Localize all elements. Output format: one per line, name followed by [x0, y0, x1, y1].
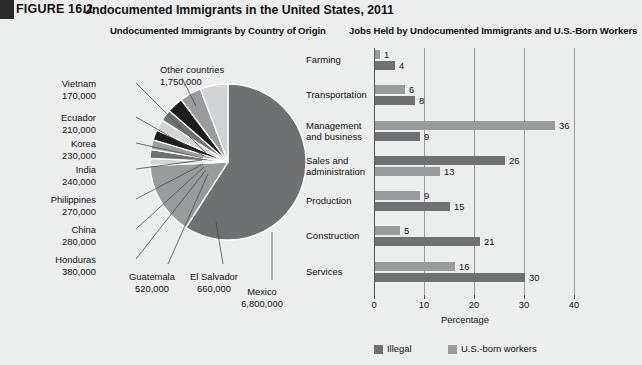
pie-label-vietnam: Vietnam170,000 [62, 78, 96, 101]
x-tick-30: 30 [519, 299, 529, 310]
bar-bottom-row-6 [375, 273, 525, 282]
bar-top-row-4 [375, 191, 420, 200]
x-tick-mark-30 [524, 295, 525, 299]
pie-label-ecuador: Ecuador210,000 [61, 112, 96, 135]
category-line-2: administration [306, 166, 372, 177]
bar-value-label: 30 [529, 273, 539, 282]
bar-value-label: 5 [404, 226, 409, 235]
legend-swatch [448, 345, 457, 354]
pie-label-value: 660,000 [174, 283, 254, 295]
category-line-1: Construction [306, 230, 372, 241]
pie-label-other-countries: Other countries1,750,000 [160, 64, 224, 87]
figure-number: FIGURE 16.2 [16, 2, 93, 16]
bar-value-label: 26 [509, 156, 519, 165]
x-tick-0: 0 [371, 299, 376, 310]
pie-label-korea: Korea230,000 [62, 138, 96, 161]
bar-category-sales-and: Sales andadministration [306, 155, 372, 178]
bar-chart-subtitle: Jobs Held by Undocumented Immigrants and… [349, 25, 637, 36]
x-tick-mark-10 [424, 295, 425, 299]
figure-accent-bar [0, 0, 14, 19]
category-line-1: Services [306, 266, 372, 277]
pie-label-name: El Salvador [174, 271, 254, 283]
category-line-1: Production [306, 195, 372, 206]
pie-label-name: Other countries [160, 64, 224, 76]
bar-category-services: Services [306, 266, 372, 277]
pie-label-name: Vietnam [62, 78, 96, 90]
bar-value-label: 21 [484, 237, 494, 246]
pie-label-name: Honduras [55, 254, 96, 266]
bar-top-row-3 [375, 156, 505, 165]
x-axis-label: Percentage [441, 314, 489, 325]
pie-label-value: 210,000 [61, 124, 96, 136]
pie-chart-panel: Mexico6,800,000Other countries1,750,000V… [0, 36, 310, 336]
bar-value-label: 9 [424, 191, 429, 200]
legend-label: U.S.-born workers [461, 343, 537, 354]
pie-label-name: Philippines [51, 194, 96, 206]
x-tick-40: 40 [569, 299, 579, 310]
gridline-40 [574, 48, 575, 295]
bar-value-label: 9 [424, 132, 429, 141]
pie-label-china: China280,000 [62, 224, 96, 247]
x-tick-mark-0 [374, 295, 375, 299]
bar-top-row-5 [375, 226, 400, 235]
bar-chart-panel: FarmingTransportationManagementand busin… [306, 40, 642, 340]
pie-label-value: 270,000 [51, 206, 96, 218]
bar-value-label: 16 [459, 262, 469, 271]
bar-value-label: 6 [409, 85, 414, 94]
pie-label-name: Ecuador [61, 112, 96, 124]
figure-header: FIGURE 16.2 Undocumented Immigrants in t… [0, 0, 642, 19]
category-line-1: Transportation [306, 89, 372, 100]
pie-label-value: 240,000 [62, 176, 96, 188]
bar-category-transportation: Transportation [306, 89, 372, 100]
bar-bottom-row-4 [375, 202, 450, 211]
bar-top-row-2 [375, 121, 555, 130]
pie-label-el-salvador: El Salvador660,000 [174, 271, 254, 294]
gridline-30 [524, 48, 525, 295]
bar-value-label: 4 [399, 61, 404, 70]
bar-top-row-1 [375, 85, 405, 94]
bar-value-label: 36 [559, 121, 569, 130]
bar-top-row-0 [375, 50, 380, 59]
x-tick-mark-40 [574, 295, 575, 299]
bar-category-production: Production [306, 195, 372, 206]
pie-label-philippines: Philippines270,000 [51, 194, 96, 217]
legend-swatch [374, 345, 383, 354]
bar-value-label: 13 [444, 167, 454, 176]
pie-label-name: Korea [62, 138, 96, 150]
bar-category-construction: Construction [306, 230, 372, 241]
pie-label-value: 170,000 [62, 90, 96, 102]
pie-label-value: 1,750,000 [160, 76, 224, 88]
pie-label-india: India240,000 [62, 164, 96, 187]
category-line-1: Sales and [306, 155, 372, 166]
bar-bottom-row-1 [375, 96, 415, 105]
bar-value-label: 15 [454, 202, 464, 211]
category-line-1: Management [306, 120, 372, 131]
pie-label-value: 380,000 [55, 266, 96, 278]
pie-label-honduras: Honduras380,000 [55, 254, 96, 277]
pie-label-name: China [62, 224, 96, 236]
bar-top-row-6 [375, 262, 455, 271]
bar-bottom-row-0 [375, 61, 395, 70]
bar-category-farming: Farming [306, 54, 372, 65]
gridline-20 [474, 48, 475, 295]
pie-label-value: 6,800,000 [222, 298, 302, 310]
bar-bottom-row-2 [375, 132, 420, 141]
x-tick-mark-20 [474, 295, 475, 299]
pie-chart-subtitle: Undocumented Immigrants by Country of Or… [110, 25, 326, 36]
pie-label-value: 230,000 [62, 150, 96, 162]
category-line-1: Farming [306, 54, 372, 65]
x-tick-20: 20 [469, 299, 479, 310]
bar-bottom-row-5 [375, 237, 480, 246]
bar-category-management: Managementand business [306, 120, 372, 143]
figure-root: FIGURE 16.2 Undocumented Immigrants in t… [0, 0, 642, 365]
pie-label-value: 280,000 [62, 236, 96, 248]
bar-bottom-row-3 [375, 167, 440, 176]
bar-value-label: 8 [419, 96, 424, 105]
figure-title: Undocumented Immigrants in the United St… [83, 3, 394, 17]
pie-label-name: India [62, 164, 96, 176]
x-tick-10: 10 [419, 299, 429, 310]
bar-value-label: 1 [384, 50, 389, 59]
legend-label: Illegal [387, 343, 412, 354]
category-line-2: and business [306, 131, 372, 142]
bar-plot-area: 146836926139155211630 [374, 48, 574, 295]
